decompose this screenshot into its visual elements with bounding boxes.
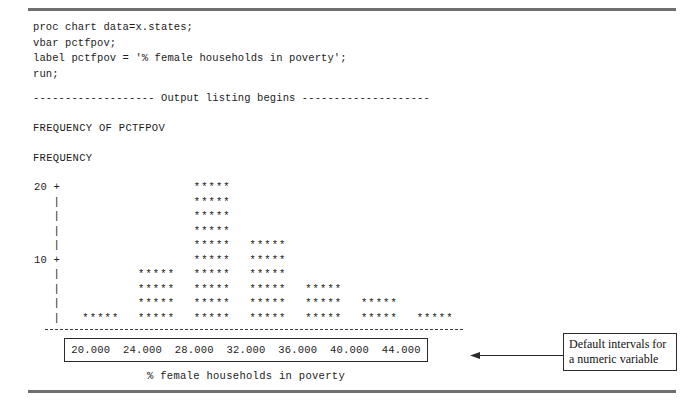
y-axis-tick: | xyxy=(33,267,73,282)
y-axis-tick: | xyxy=(33,195,73,210)
bar-star-row: ***** xyxy=(188,267,236,282)
code-line-3: label pctfpov = '% female households in … xyxy=(33,52,347,64)
x-axis-tick-label: 36.000 xyxy=(272,344,324,356)
arrow-left-icon xyxy=(470,351,563,360)
bar-star-row: ***** xyxy=(188,195,236,210)
x-axis-tick-label: 44.000 xyxy=(375,344,427,356)
histogram-bar: ********** xyxy=(355,296,403,325)
histogram-bar: ******************** xyxy=(133,267,181,325)
bar-star-row: ***** xyxy=(188,311,236,326)
histogram-bar: ***** xyxy=(77,311,125,326)
y-axis-tick: | xyxy=(33,296,73,311)
bar-area: ****************************************… xyxy=(73,180,463,325)
bar-star-row: ***** xyxy=(133,267,181,282)
bar-star-row: ***** xyxy=(188,209,236,224)
bar-star-row: ***** xyxy=(300,311,348,326)
code-line-2: vbar pctfpov; xyxy=(33,37,116,49)
ascii-histogram: 20 + | | | | 10 + | | | | **************… xyxy=(33,180,463,325)
x-axis-tick-label: 40.000 xyxy=(324,344,376,356)
callout-line-1: Default intervals for xyxy=(569,337,671,352)
x-axis-tick-label: 32.000 xyxy=(220,344,272,356)
bar-star-row: ***** xyxy=(244,282,292,297)
y-axis-tick: 10 + xyxy=(33,253,73,268)
bottom-rule xyxy=(28,390,676,393)
bar-star-row: ***** xyxy=(244,311,292,326)
histogram-bar: ***** xyxy=(411,311,459,326)
y-axis-tick: | xyxy=(33,209,73,224)
code-line-1: proc chart data=x.states; xyxy=(33,21,193,33)
bar-star-row: ***** xyxy=(411,311,459,326)
bar-star-row: ***** xyxy=(300,282,348,297)
callout-box: Default intervals for a numeric variable xyxy=(563,333,677,371)
x-axis-tick-label: 28.000 xyxy=(168,344,220,356)
x-axis-title: % female households in poverty xyxy=(64,370,428,382)
bar-star-row: ***** xyxy=(133,311,181,326)
code-line-4: run; xyxy=(33,68,59,80)
callout-line-2: a numeric variable xyxy=(569,352,671,367)
bar-star-row: ***** xyxy=(355,311,403,326)
output-listing-divider: ------------------- Output listing begin… xyxy=(33,91,430,107)
bar-star-row: ***** xyxy=(244,267,292,282)
book-page: proc chart data=x.states; vbar pctfpov; … xyxy=(0,0,691,407)
bar-star-row: ***** xyxy=(355,296,403,311)
bar-star-row: ***** xyxy=(244,253,292,268)
bar-star-row: ***** xyxy=(188,224,236,239)
histogram-bar: ****************************************… xyxy=(188,180,236,325)
bar-star-row: ***** xyxy=(188,238,236,253)
sas-code-listing: proc chart data=x.states; vbar pctfpov; … xyxy=(33,20,347,82)
y-axis-tick: | xyxy=(33,224,73,239)
histogram-bar: ****************************** xyxy=(244,238,292,325)
top-rule xyxy=(28,8,676,11)
bar-star-row: ***** xyxy=(133,282,181,297)
y-axis-tick: | xyxy=(33,282,73,297)
bar-star-row: ***** xyxy=(188,180,236,195)
y-axis: 20 + | | | | 10 + | | | | xyxy=(33,180,73,325)
x-axis-baseline xyxy=(45,329,463,330)
bar-star-row: ***** xyxy=(300,296,348,311)
y-axis-tick: 20 + xyxy=(33,180,73,195)
bar-star-row: ***** xyxy=(188,253,236,268)
histogram-bar: *************** xyxy=(300,282,348,326)
x-axis-tick-label: 24.000 xyxy=(117,344,169,356)
x-axis-tick-label: 20.000 xyxy=(65,344,117,356)
bar-star-row: ***** xyxy=(77,311,125,326)
bar-star-row: ***** xyxy=(188,282,236,297)
x-axis-tick-box: 20.00024.00028.00032.00036.00040.00044.0… xyxy=(64,338,428,362)
bar-star-row: ***** xyxy=(133,296,181,311)
bar-star-row: ***** xyxy=(244,296,292,311)
bar-star-row: ***** xyxy=(188,296,236,311)
frequency-of-heading: FREQUENCY OF PCTFPOV xyxy=(33,122,165,134)
frequency-axis-heading: FREQUENCY xyxy=(33,152,92,164)
y-axis-tick: | xyxy=(33,238,73,253)
y-axis-tick: | xyxy=(33,311,73,326)
bar-star-row: ***** xyxy=(244,238,292,253)
